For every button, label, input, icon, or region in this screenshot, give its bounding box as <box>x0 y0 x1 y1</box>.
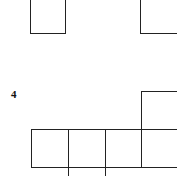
net-cell-row-1 <box>31 129 69 168</box>
fragment-cell-1 <box>30 0 66 34</box>
net-cell-top <box>141 91 177 130</box>
net-cell-row-2 <box>68 129 106 168</box>
net-cell-row-3 <box>105 129 142 168</box>
net-cell-row-4 <box>141 129 177 168</box>
problem-number: 4 <box>11 89 17 100</box>
fragment-cell-2 <box>140 0 177 34</box>
net-cell-bottom <box>68 167 106 176</box>
